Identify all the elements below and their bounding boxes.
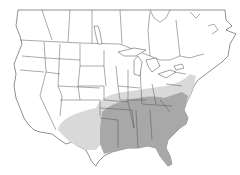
range-map bbox=[0, 0, 240, 175]
